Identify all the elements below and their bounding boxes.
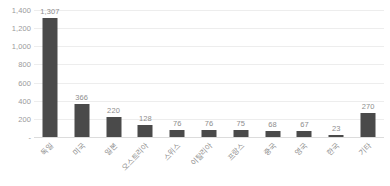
y-axis-tick-label: 600: [18, 78, 31, 87]
bar-group: 270기타: [352, 0, 384, 186]
bar-value-label: 76: [173, 119, 182, 128]
x-axis-category-label-text: 한국: [324, 140, 342, 158]
bar-value-label: 76: [205, 119, 214, 128]
x-axis-category-label-text: 프랑스: [224, 140, 247, 163]
bar-value-label: 23: [332, 124, 341, 133]
x-axis-category-label-text: 기타: [356, 140, 374, 158]
bar-group: 76이탈리아: [193, 0, 225, 186]
y-axis-tick-label: -: [28, 133, 31, 142]
x-axis-category-label-text: 일본: [102, 140, 120, 158]
bar-group: 1,307독일: [34, 0, 66, 186]
bar-value-label: 366: [75, 93, 88, 102]
bar-group: 23한국: [320, 0, 352, 186]
x-axis-category-label-text: 영국: [293, 140, 311, 158]
bar-group: 68중국: [257, 0, 289, 186]
bar-value-label: 67: [300, 120, 309, 129]
bar-value-label: 220: [107, 106, 120, 115]
y-axis-tick-label: 800: [18, 60, 31, 69]
bar-group: 75프랑스: [225, 0, 257, 186]
y-axis-tick-label: 400: [18, 96, 31, 105]
bar[interactable]: [42, 18, 57, 137]
bars-container: 1,307독일366미국220일본128오스트리아76스위스76이탈리아75프랑…: [34, 0, 384, 186]
bar-group: 128오스트리아: [129, 0, 161, 186]
y-axis-tick-label: 1,000: [12, 42, 31, 51]
bar-value-label: 75: [237, 119, 246, 128]
x-axis-category-label-text: 미국: [70, 140, 88, 158]
bar-value-label: 68: [268, 120, 277, 129]
y-axis: -2004006008001,0001,2001,400: [0, 0, 34, 186]
bar-group: 67영국: [289, 0, 321, 186]
bar-value-label: 270: [362, 102, 375, 111]
bar-chart: -2004006008001,0001,2001,400 1,307독일366미…: [0, 0, 390, 186]
x-axis-category-label-text: 중국: [261, 140, 279, 158]
y-axis-tick-label: 1,400: [12, 6, 31, 15]
plot-area: 1,307독일366미국220일본128오스트리아76스위스76이탈리아75프랑…: [34, 0, 390, 186]
y-axis-tick-label: 1,200: [12, 24, 31, 33]
y-axis-tick-label: 200: [18, 114, 31, 123]
bar-value-label: 1,307: [40, 7, 59, 16]
bar-group: 366미국: [66, 0, 98, 186]
bar-value-label: 128: [139, 114, 152, 123]
x-axis-category-label-text: 스위스: [160, 140, 183, 163]
x-axis-category-label-text: 독일: [38, 140, 56, 158]
